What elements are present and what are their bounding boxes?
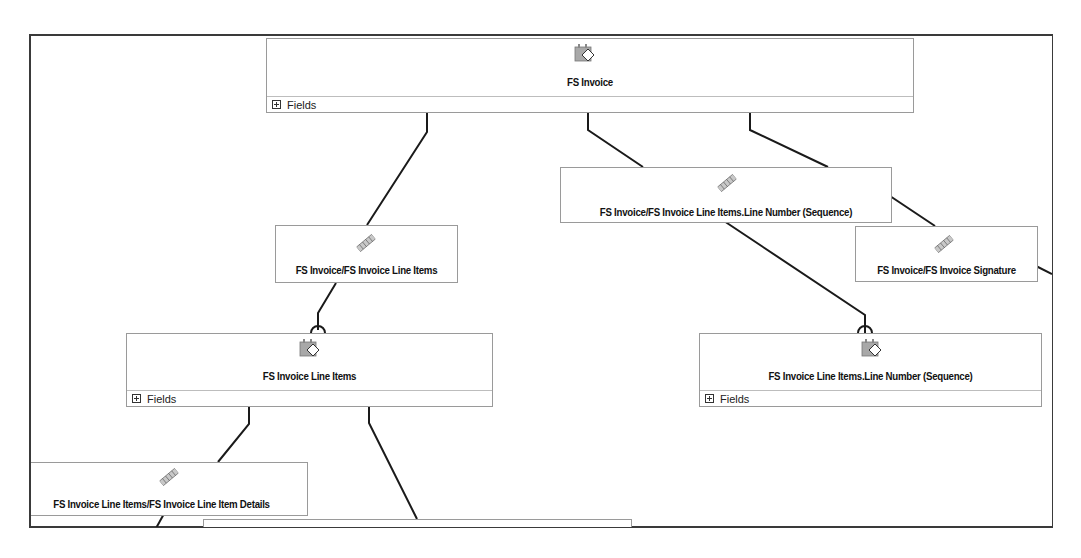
relationship-node-line-number[interactable]: FS Invoice/FS Invoice Line Items.Line Nu… [560,167,892,223]
expand-plus-icon[interactable] [705,394,714,403]
relationship-chain-icon [933,234,955,255]
fields-toggle[interactable]: Fields [127,390,492,406]
entity-title: FS Invoice Line Items [149,370,470,382]
entity-node-partial-bottom[interactable] [203,519,632,527]
fields-label: Fields [720,393,749,405]
relationship-title: FS Invoice/FS Invoice Line Items.Line Nu… [581,206,871,218]
relationship-title: FS Invoice/FS Invoice Line Items [287,264,446,276]
entity-node-fs-invoice-line-number[interactable]: FS Invoice Line Items.Line Number (Seque… [699,333,1042,407]
entity-tag-icon [860,337,882,359]
entity-tag-icon [573,42,595,64]
relationship-chain-icon [716,173,738,194]
entity-title: FS Invoice Line Items.Line Number (Seque… [720,370,1020,382]
fields-toggle[interactable]: Fields [700,390,1041,406]
expand-plus-icon[interactable] [272,100,281,109]
relationship-title: FS Invoice/FS Invoice Signature [867,264,1026,276]
expand-plus-icon[interactable] [132,394,141,403]
relationship-node-line-item-details[interactable]: FS Invoice Line Items/FS Invoice Line It… [31,462,308,516]
entity-title: FS Invoice [306,76,874,88]
fields-toggle[interactable]: Fields [267,96,913,112]
relationship-title: FS Invoice Line Items/FS Invoice Line It… [33,498,289,510]
fields-label: Fields [287,99,316,111]
relationship-node-line-items[interactable]: FS Invoice/FS Invoice Line Items [275,225,458,283]
relationship-chain-icon [355,233,377,254]
entity-node-fs-invoice-line-items[interactable]: FS Invoice Line Items Fields [126,333,493,407]
entity-tag-icon [298,337,320,359]
entity-node-fs-invoice[interactable]: FS Invoice Fields [266,38,914,113]
fields-label: Fields [147,393,176,405]
relationship-node-signature[interactable]: FS Invoice/FS Invoice Signature [855,226,1038,282]
relationship-chain-icon [158,467,180,488]
